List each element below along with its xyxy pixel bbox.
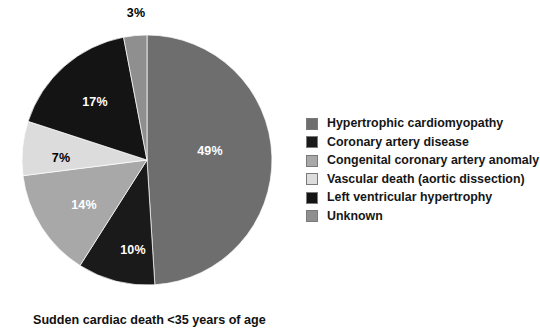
legend-color-swatch: [306, 155, 318, 167]
pie-slice: [147, 35, 272, 285]
legend-color-swatch: [306, 136, 318, 148]
legend-color-swatch: [306, 210, 318, 222]
legend-item: Vascular death (aortic dissection): [306, 173, 539, 186]
pie-slice-value-label: 49%: [197, 144, 223, 158]
legend-item: Coronary artery disease: [306, 136, 539, 149]
legend-color-swatch: [306, 192, 318, 204]
legend-item: Hypertrophic cardiomyopathy: [306, 117, 539, 130]
legend-item-label: Left ventricular hypertrophy: [327, 191, 492, 204]
legend-color-swatch: [306, 173, 318, 185]
chart-legend: Hypertrophic cardiomyopathyCoronary arte…: [306, 117, 539, 223]
legend-item: Unknown: [306, 210, 539, 223]
legend-item-label: Congenital coronary artery anomaly: [327, 154, 539, 167]
legend-item-label: Vascular death (aortic dissection): [327, 173, 525, 186]
chart-caption: Sudden cardiac death <35 years of age: [33, 313, 266, 327]
pie-slice-value-label: 7%: [52, 151, 70, 165]
pie-slice-value-label: 14%: [71, 198, 97, 212]
pie-slice-value-label: 17%: [82, 95, 108, 109]
pie-chart-figure: 49%10%14%7%17%3% Hypertrophic cardiomyop…: [0, 0, 540, 333]
legend-item-label: Unknown: [327, 210, 383, 223]
legend-item: Congenital coronary artery anomaly: [306, 154, 539, 167]
legend-color-swatch: [306, 118, 318, 130]
legend-item: Left ventricular hypertrophy: [306, 191, 539, 204]
pie-slice-value-label: 10%: [120, 243, 146, 257]
legend-item-label: Coronary artery disease: [327, 136, 469, 149]
legend-item-label: Hypertrophic cardiomyopathy: [327, 117, 503, 130]
pie-slice-value-label: 3%: [127, 6, 145, 20]
